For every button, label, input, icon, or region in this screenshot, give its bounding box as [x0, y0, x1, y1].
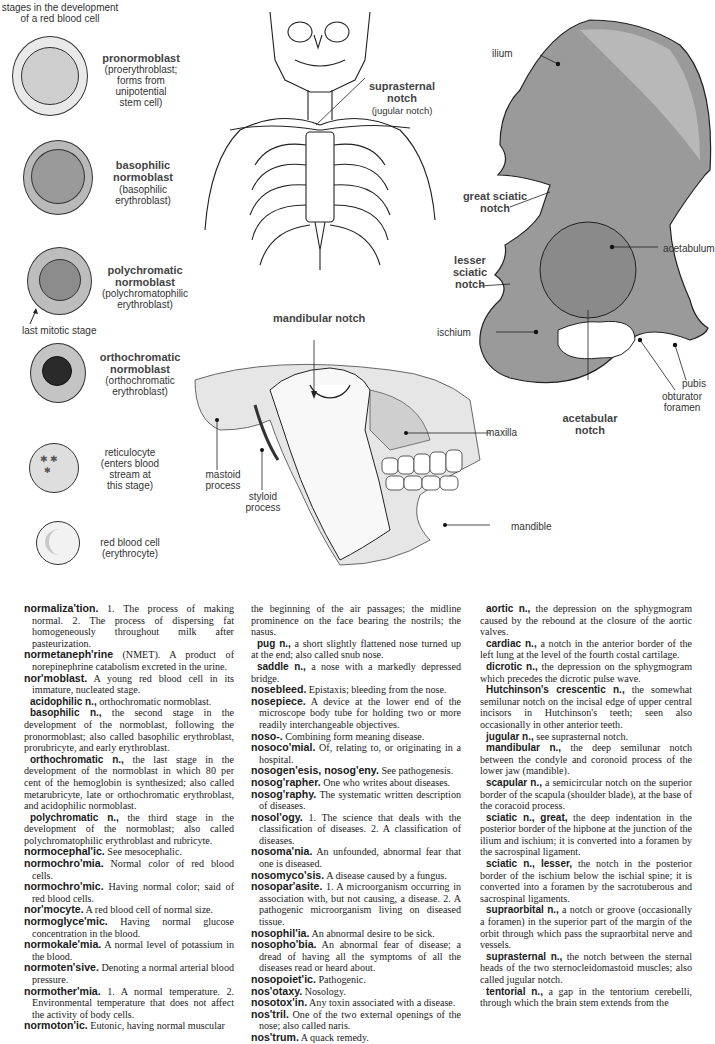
label-line: acetabular [555, 412, 625, 424]
subentry: orthochromatic n., the last stage in the… [24, 754, 234, 812]
dictionary-entry: nos'trum. A quack remedy. [251, 1032, 461, 1044]
acetabular-notch-label: acetabular notch [555, 412, 625, 436]
label-line: obturator [652, 391, 712, 402]
detail-line: (proerythroblast; [88, 64, 194, 75]
subentry: sciatic n., great, the deep indentation … [480, 812, 692, 858]
label-line: styloid [238, 491, 288, 502]
headword: normoten'sive. [24, 961, 99, 973]
subentry: pug n., a short slightly flattened nose … [251, 638, 461, 661]
maxilla-label: maxilla [486, 427, 517, 438]
dictionary-entry: normother'mia. 1. A normal temperature. … [24, 986, 234, 1021]
subentry: supraorbital n., a notch or groove (occa… [480, 904, 692, 950]
dictionary-entry: nosog'raphy. The systematic written desc… [251, 789, 461, 812]
headword: mandibular n., [486, 742, 561, 753]
mastoid-process-label: mastoid process [195, 469, 251, 491]
headword: dicrotic n., [486, 661, 538, 672]
headword: nosoco'mial. [251, 741, 315, 753]
label-line: process [195, 480, 251, 491]
dictionary-entry: normoten'sive. Denoting a normal arteria… [24, 962, 234, 985]
definition: Eutonic, having normal muscular [88, 1020, 225, 1031]
basophilic-normoblast-cell-icon [23, 140, 93, 215]
headword: pug n., [257, 638, 291, 649]
headword: cardiac n., [486, 638, 537, 649]
stage-name: basophilic normoblast [95, 159, 191, 183]
headword: jugular n., [486, 731, 534, 742]
mitotic-label: last mitotic stage [22, 325, 96, 336]
definition: the beginning of the air passages; the m… [251, 603, 461, 637]
label-line: notch [445, 278, 495, 290]
obturator-foramen-label: obturator foramen [652, 391, 712, 413]
headword: saddle n., [257, 661, 306, 672]
title-line: of a red blood cell [0, 13, 120, 24]
dictionary-entry: nosoco'mial. Of, relating to, or origina… [251, 742, 461, 765]
detail-line: (basophilic [95, 184, 191, 195]
detail-line: (orthochromatic [90, 375, 190, 386]
label-line: suprasternal [362, 80, 442, 92]
definition: One of the two external openings of the … [259, 1009, 461, 1032]
headword: nosomyco'sis. [251, 869, 324, 881]
dictionary-entry: normokale'mia. A normal level of potassi… [24, 939, 234, 962]
dictionary-entry: nos'tril. One of the two external openin… [251, 1009, 461, 1032]
definition: A quack remedy. [299, 1032, 369, 1043]
subentry: saddle n., a nose with a markedly depres… [251, 661, 461, 684]
headword: polychromatic n., [30, 812, 119, 823]
dictionary-entry: nor'moblast. A young red blood cell in i… [24, 673, 234, 696]
definition: See pathogenesis. [379, 765, 453, 776]
subentry: acidophilic n., orthochromatic normoblas… [24, 696, 234, 708]
definition: Nosology. [302, 986, 346, 997]
headword: normocephal'ic. [24, 845, 105, 857]
headword: nos'tril. [251, 1008, 289, 1020]
dictionary-entry: nosoma'nia. An unfounded, abnormal fear … [251, 846, 461, 869]
subentry: jugular n., see suprasternal notch. [480, 731, 692, 743]
headword: acidophilic n., [30, 696, 97, 707]
headword: noso-. [251, 730, 283, 742]
skeleton-illustration-icon [200, 0, 460, 270]
great-sciatic-notch-label: great sciatic notch [455, 190, 535, 214]
headword: nos'trum. [251, 1031, 299, 1043]
name-line: normoblast [95, 171, 191, 183]
stage-detail: reticulocyte (enters blood stream at thi… [85, 447, 175, 491]
subentry: aortic n., the depression on the sphygmo… [480, 603, 692, 638]
definition: An abnormal desire to be sick. [309, 928, 434, 939]
subentry: sciatic n., lesser, the notch in the pos… [480, 858, 692, 904]
definition: see suprasternal notch. [534, 731, 628, 742]
headword: nor'moblast. [24, 672, 87, 684]
headword: aortic n., [486, 603, 530, 614]
stage-name: polychromatic normoblast [95, 264, 195, 288]
label-line: mastoid [195, 469, 251, 480]
stage-name: orthochromatic normoblast [90, 351, 190, 375]
headword: supraorbital n., [486, 904, 559, 915]
subentry: dicrotic n., the depression on the sphyg… [480, 661, 692, 684]
pronormoblast-cell-icon [12, 36, 88, 116]
stage-detail: (basophilic erythroblast) [95, 184, 191, 206]
headword: nosotox'in. [251, 996, 307, 1008]
detail-line: unipotential [88, 86, 194, 97]
headword: normother'mia. [24, 985, 101, 997]
acetabulum-label: acetabulum [663, 243, 715, 254]
headword: nos'otaxy. [251, 985, 302, 997]
lesser-sciatic-notch-label: lesser sciatic notch [445, 254, 495, 290]
headword: nosopoiet'ic. [251, 973, 316, 985]
subentry: tentorial n., a gap in the tentorium cer… [480, 986, 692, 1009]
headword: nosogen'esis, nosog'eny. [251, 764, 379, 776]
jaw-illustration-icon [190, 330, 490, 570]
subentry: suprasternal n., the notch between the s… [480, 951, 692, 986]
detail-line: stem cell) [88, 97, 194, 108]
stage-detail: (orthochromatic erythroblast) [90, 375, 190, 397]
headword: nosebleed. [251, 683, 306, 695]
stage-detail: (proerythroblast; forms from unipotentia… [88, 64, 194, 108]
headword: nosopar'asite. [251, 880, 322, 892]
definition: One who writes about diseases. [321, 777, 451, 788]
styloid-process-label: styloid process [238, 491, 288, 513]
headword: normaliza'tion. [24, 602, 98, 614]
label-line: notch [555, 424, 625, 436]
subentry: scapular n., a semicircular notch on the… [480, 777, 692, 812]
headword: nosoma'nia. [251, 845, 312, 857]
detail-line: (polychromatophilic [95, 288, 195, 299]
headword: suprasternal n., [486, 951, 562, 962]
detail-line: this stage) [85, 480, 175, 491]
headword: normochro'mic. [24, 880, 104, 892]
headword: nosog'raphy. [251, 788, 316, 800]
headword: nosopho'bia. [251, 938, 317, 950]
definition: Combining form meaning disease. [283, 731, 425, 742]
